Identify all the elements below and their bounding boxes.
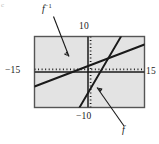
axis-label-x-min: −15	[5, 66, 20, 76]
axis-label-y-max: 10	[79, 22, 89, 32]
curve-label-f-inverse-exponent: −1	[45, 2, 52, 9]
axis-label-y-min: −10	[76, 112, 91, 122]
curve-label-f: f	[122, 125, 125, 135]
graph-figure: c	[0, 0, 159, 144]
axis-label-x-max: 15	[146, 67, 156, 77]
curve-label-f-inverse: f−1	[42, 3, 52, 14]
